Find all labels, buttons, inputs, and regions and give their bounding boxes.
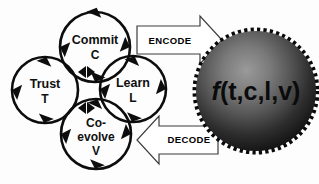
- commit-label-line1: Commit: [72, 33, 119, 47]
- learn-label-line1: Learn: [116, 76, 150, 90]
- diagram-canvas: Commit C Trust T Learn L: [0, 0, 319, 184]
- encode-arrow-label: ENCODE: [148, 35, 191, 46]
- node-commit[interactable]: Commit C: [57, 5, 132, 85]
- diagram-figure: Commit C Trust T Learn L: [0, 0, 319, 184]
- trust-label-line2: T: [41, 92, 49, 106]
- coevolve-label-line3: V: [92, 144, 100, 158]
- coevolve-label-line1: Co-: [86, 116, 106, 130]
- sphere-formula-args: (t,c,l,v): [220, 77, 301, 105]
- trust-label-line1: Trust: [30, 77, 61, 91]
- sphere-group[interactable]: f(t,c,l,v): [195, 30, 317, 152]
- sphere-formula-text: f(t,c,l,v): [212, 77, 301, 105]
- center-arrowhead-left: [78, 66, 86, 78]
- learn-label-line2: L: [129, 91, 136, 105]
- commit-label-line2: C: [91, 48, 100, 62]
- node-learn[interactable]: Learn L: [98, 53, 169, 125]
- coevolve-label-line2: evolve: [77, 130, 115, 144]
- center-arrowheads: [78, 66, 95, 114]
- node-coevolve[interactable]: Co- evolve V: [59, 96, 134, 172]
- decode-arrow-label: DECODE: [167, 134, 210, 145]
